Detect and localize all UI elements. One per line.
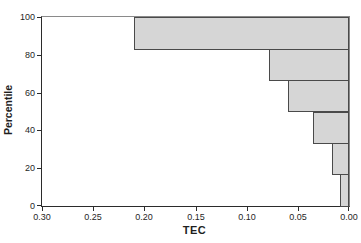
plot-area: 0.300.250.200.150.100.050.00020406080100 [41,16,350,207]
bar [288,80,349,113]
y-axis-title: Percentile [2,103,14,117]
x-axis-tick-label: 0.10 [238,212,256,222]
y-axis-tick-label: 0 [5,201,35,211]
x-axis-tick [144,207,145,211]
bar [340,174,349,207]
y-axis-tick-label: 40 [5,125,35,135]
bar [269,49,349,81]
y-axis-tick-label: 80 [5,50,35,60]
y-axis-tick [37,17,41,18]
x-axis-tick [348,207,349,211]
x-axis-tick [298,207,299,211]
x-axis-tick [42,207,43,211]
chart: Percentile 0.300.250.200.150.100.050.000… [0,0,361,243]
bar [332,143,349,175]
y-axis-tick [37,55,41,56]
x-axis-tick [247,207,248,211]
y-axis-tick-label: 100 [5,12,35,22]
x-axis-tick-label: 0.20 [135,212,153,222]
x-axis-tick [196,207,197,211]
x-axis-tick-label: 0.05 [289,212,307,222]
x-axis-tick-label: 0.30 [33,212,51,222]
y-axis-tick [37,130,41,131]
y-axis-tick-label: 60 [5,88,35,98]
y-axis-tick [37,93,41,94]
y-axis-tick-label: 20 [5,163,35,173]
bar [313,112,349,145]
x-axis-tick-label: 0.00 [340,212,358,222]
x-axis-title: TEC [41,224,348,236]
y-axis-tick [37,168,41,169]
bar [134,17,349,50]
x-axis-tick-label: 0.15 [187,212,205,222]
x-axis-tick-label: 0.25 [84,212,102,222]
x-axis-tick [93,207,94,211]
y-axis-tick [37,205,41,206]
